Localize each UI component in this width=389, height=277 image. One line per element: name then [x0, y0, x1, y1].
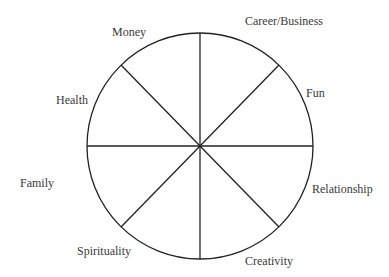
label-money: Money: [112, 25, 146, 40]
label-creativity: Creativity: [245, 254, 293, 269]
label-spirituality: Spirituality: [77, 244, 131, 259]
label-career: Career/Business: [245, 14, 323, 29]
life-wheel: [0, 0, 389, 277]
label-relationship: Relationship: [312, 182, 373, 197]
label-health: Health: [56, 93, 88, 108]
label-family: Family: [20, 176, 54, 191]
label-fun: Fun: [306, 86, 325, 101]
